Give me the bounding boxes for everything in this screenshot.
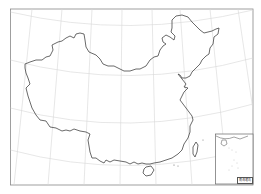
china-outline-map [0, 0, 261, 194]
inset-label: 南海诸岛 [237, 177, 253, 184]
